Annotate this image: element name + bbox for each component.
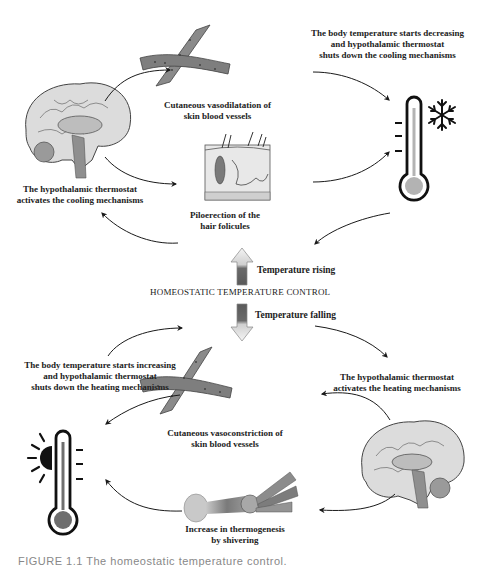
vasoconstriction-label: Cutaneous vasoconstriction of skin blood… xyxy=(160,428,290,450)
temperature-falling-arrow-icon xyxy=(231,304,253,341)
muscle-shivering-icon xyxy=(184,472,298,522)
snowflake-icon xyxy=(429,100,455,130)
arrow-thermometer-to-center xyxy=(315,213,390,244)
arrow-brain-to-piloerection xyxy=(105,157,176,184)
arrow-brain-to-vasoconstriction xyxy=(322,393,390,420)
thermometer-hot-icon xyxy=(49,431,83,534)
skin-piloerection-icon xyxy=(205,132,270,200)
heating-brain-label: The hypothalamic thermostat activates th… xyxy=(322,372,472,394)
arrow-shivering-to-thermometer xyxy=(106,480,182,511)
figure-caption: FIGURE 1.1 The homeostatic temperature c… xyxy=(18,555,287,567)
arrow-center-to-top-brain xyxy=(102,213,178,243)
sun-icon xyxy=(28,434,52,482)
brain-bottom-icon xyxy=(362,421,465,508)
vasodilatation-label: Cutaneous vasodilatation of skin blood v… xyxy=(155,100,280,122)
cooling-brain-label: The hypothalamic thermostat activates th… xyxy=(10,184,150,206)
heating-feedback-label: The body temperature starts increasing a… xyxy=(20,360,180,393)
brain-top-icon xyxy=(26,83,131,178)
temperature-rising-label: Temperature rising xyxy=(257,265,335,275)
arrow-vasodilatation-to-thermometer xyxy=(313,72,389,100)
arrow-feedback-to-center xyxy=(108,328,182,356)
arrow-piloerection-to-thermometer xyxy=(313,152,389,182)
shivering-label: Increase in thermogenesis by shivering xyxy=(180,524,290,546)
cooling-feedback-label: The body temperature starts decreasing a… xyxy=(300,28,475,61)
arrow-center-to-bottom-brain xyxy=(315,326,387,357)
vessel-dilated-icon xyxy=(140,25,230,86)
diagram-title: HOMEOSTATIC TEMPERATURE CONTROL xyxy=(150,287,330,297)
temperature-rising-arrow-icon xyxy=(231,248,253,285)
thermometer-cold-icon xyxy=(395,97,428,200)
piloerection-label: Piloerection of the hair folicules xyxy=(175,210,275,232)
temperature-falling-label: Temperature falling xyxy=(255,310,336,320)
